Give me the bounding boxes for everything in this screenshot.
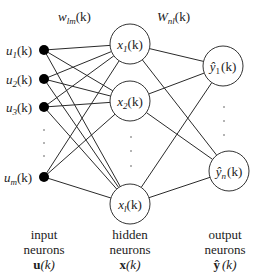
input-node-dot	[39, 172, 49, 182]
output-layer: ŷ1(k) ŷn(k)	[203, 46, 249, 191]
edge-hidden-output	[149, 73, 205, 94]
edge-input-hidden	[44, 61, 119, 177]
output-node-label: ŷn(k)	[214, 164, 242, 181]
edge-input-hidden	[44, 102, 110, 107]
caption-line: neurons	[204, 242, 245, 257]
input-node-3: u3(k)	[6, 100, 49, 117]
input-node-1: u1(k)	[6, 43, 49, 60]
hidden-node-label: x1(k)	[116, 37, 142, 54]
caption-symbol: u(k)	[33, 257, 55, 272]
hidden-layer: x1(k) x2(k) xl(k)	[110, 24, 150, 224]
output-node-n: ŷn(k)	[209, 151, 249, 191]
output-caption: output neurons ŷ(k)	[204, 227, 245, 272]
neural-network-diagram: wlm(k) Wnl(k) u1(k) u2(k) u3(k) um(k)	[0, 0, 256, 278]
caption-line: input	[31, 227, 58, 242]
input-node-m: um(k)	[4, 170, 49, 187]
edge-input-hidden	[44, 107, 117, 189]
edge-input-hidden	[44, 177, 111, 198]
edge-hidden-output	[149, 177, 210, 197]
input-node-label: um(k)	[4, 170, 32, 187]
input-node-dot	[39, 74, 49, 84]
input-node-dot	[39, 45, 49, 55]
output-node-1: ŷ1(k)	[203, 46, 243, 86]
caption-line: neurons	[109, 242, 150, 257]
edge-input-hidden	[44, 50, 113, 91]
edge-input-hidden	[44, 45, 110, 50]
caption-symbol: ŷ(k)	[214, 257, 237, 272]
input-node-2: u2(k)	[6, 72, 49, 89]
input-node-label: u3(k)	[6, 100, 32, 117]
output-node-label: ŷ1(k)	[208, 59, 236, 76]
caption-symbol: x(k)	[120, 257, 141, 272]
caption-line: neurons	[23, 242, 64, 257]
caption-line: output	[208, 227, 242, 242]
hidden-node-1: x1(k)	[110, 24, 150, 64]
hidden-ellipsis	[130, 136, 132, 167]
output-ellipsis	[223, 106, 225, 136]
hidden-node-label: x2(k)	[116, 94, 142, 111]
input-node-label: u1(k)	[6, 43, 32, 60]
hidden-node-label: xl(k)	[117, 197, 141, 214]
hidden-caption: hidden neurons x(k)	[109, 227, 150, 272]
input-node-label: u2(k)	[6, 72, 32, 89]
edge-hidden-output	[149, 49, 203, 62]
input-caption: input neurons u(k)	[23, 227, 64, 272]
input-layer: u1(k) u2(k) u3(k) um(k)	[4, 43, 49, 187]
input-node-dot	[39, 102, 49, 112]
weight-label-input-hidden: wlm(k)	[58, 9, 91, 26]
hidden-node-2: x2(k)	[110, 81, 150, 121]
hidden-node-l: xl(k)	[110, 184, 150, 224]
edges-group	[44, 45, 217, 198]
weight-label-hidden-output: Wnl(k)	[157, 9, 190, 26]
caption-line: hidden	[112, 227, 148, 242]
input-ellipsis	[43, 129, 45, 157]
edge-hidden-output	[146, 113, 212, 160]
